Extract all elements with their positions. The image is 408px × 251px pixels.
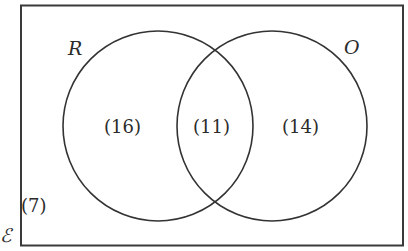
r-only-count: (16) (104, 118, 141, 136)
o-only-count: (14) (282, 118, 319, 136)
venn-diagram: R O (16) (11) (14) (7) ℰ (0, 0, 408, 251)
intersection-count: (11) (193, 118, 230, 136)
set-r-label: R (68, 39, 82, 58)
outside-count: (7) (21, 197, 47, 215)
universal-set-symbol: ℰ (0, 226, 12, 245)
set-o-label: O (344, 38, 360, 57)
